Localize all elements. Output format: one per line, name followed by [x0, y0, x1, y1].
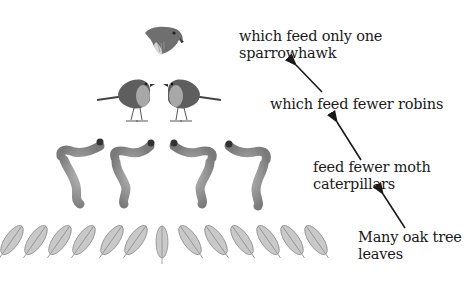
oak-leaf-icon	[156, 226, 168, 264]
arrow-caterpillars-to-robins	[337, 122, 361, 160]
oak-leaf-icon	[201, 222, 235, 262]
arrow-leaves-to-caterpillars	[383, 194, 405, 228]
oak-leaf-icon	[0, 222, 27, 262]
oak-leaf-icon	[227, 222, 261, 262]
sparrowhawk-icon	[145, 27, 184, 55]
oak-leaves-row	[0, 222, 334, 264]
label-robins: which feed fewer robins	[270, 96, 443, 113]
oak-leaf-icon	[94, 222, 128, 262]
oak-leaf-icon	[301, 222, 335, 262]
caterpillar-2-icon	[114, 140, 154, 205]
robin-left-icon	[97, 80, 155, 121]
label-caterpillars: feed fewer moth caterpillars	[313, 159, 431, 193]
caterpillar-4-icon	[226, 141, 267, 207]
caterpillar-3-icon	[171, 140, 213, 205]
robin-right-icon	[163, 80, 221, 121]
caterpillar-1-icon	[61, 139, 104, 205]
arrow-robins-to-sparrowhawk	[296, 65, 322, 92]
label-leaves: Many oak tree leaves	[358, 229, 462, 263]
oak-leaf-icon	[175, 222, 209, 262]
label-sparrowhawk: which feed only one sparrowhawk	[239, 28, 382, 62]
